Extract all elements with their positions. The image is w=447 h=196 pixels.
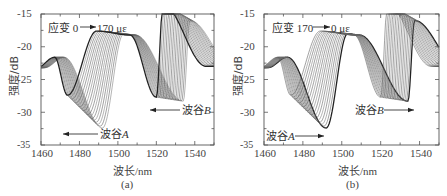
xtick-label: 1500 [332, 148, 354, 159]
ytick-label: -35 [17, 139, 30, 150]
dip-a-label: 波谷A [266, 130, 295, 142]
strain-annotation-end: 0 με [331, 22, 350, 34]
dip-b-label: 波谷B [182, 104, 211, 116]
xtick-label: 1520 [146, 148, 168, 159]
subfigure-label: (a) [121, 178, 133, 190]
xtick-label: 1500 [108, 148, 130, 159]
strain-annotation-end: 170 με [97, 22, 127, 34]
dip-b-label: 波谷B [355, 104, 384, 116]
ytick-label: -30 [17, 107, 32, 118]
arrow-head-icon [408, 108, 414, 112]
ytick-label: -30 [240, 107, 255, 118]
arrow-head-icon [63, 132, 69, 136]
x-axis-label: 波长/nm [338, 162, 377, 178]
y-axis-label: 强度/dB [229, 51, 245, 101]
chart-panel-a: -15 -20 -25 -30 -35 1460 1480 1500 1520 … [0, 0, 224, 196]
xtick-label: 1540 [410, 148, 432, 159]
xtick-label: 1460 [254, 148, 276, 159]
xtick-label: 1460 [31, 148, 53, 159]
xtick-label: 1520 [371, 148, 393, 159]
arrow-head-icon [318, 134, 324, 138]
strain-annotation-start: 应变 170 [272, 22, 313, 34]
strain-annotation-start: 应变 0 [48, 22, 78, 34]
xtick-label: 1480 [293, 148, 315, 159]
ytick-label: -35 [240, 139, 253, 150]
subfigure-label: (b) [346, 178, 359, 190]
arrow-head-icon [150, 108, 156, 112]
ytick-label: -15 [240, 8, 255, 19]
y-axis-label: 强度/dB [5, 51, 21, 101]
arrow-head-icon [324, 25, 330, 29]
xtick-label: 1480 [69, 148, 91, 159]
xtick-label: 1540 [184, 148, 206, 159]
arrow-head-icon [90, 25, 96, 29]
ytick-label: -15 [17, 8, 32, 19]
x-axis-label: 波长/nm [113, 162, 152, 178]
dip-a-label: 波谷A [100, 128, 129, 140]
chart-panel-b: -15 -20 -25 -30 -35 1460 1480 1500 1520 … [224, 0, 447, 196]
